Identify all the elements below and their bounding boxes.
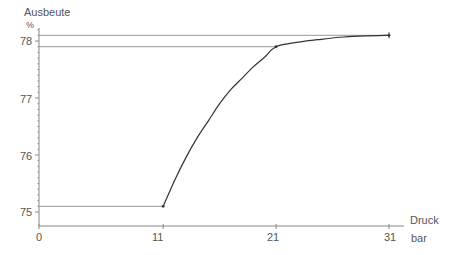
x-tick-label-21: 21 [267,232,279,243]
data-point-marker-1 [275,45,278,48]
x-axis-unit: bar [411,233,427,244]
x-tick-label-31: 31 [384,232,396,243]
plot-area [0,0,463,255]
y-tick-label-78: 78 [20,36,32,47]
y-tick-label-76: 76 [20,151,32,162]
y-axis-title: Ausbeute [24,7,70,18]
x-tick-label-0: 0 [36,232,42,243]
yield-pressure-chart: Ausbeute % 78 77 76 75 0 11 21 31 Druck … [0,0,463,255]
y-tick-label-75: 75 [20,207,32,218]
x-tick-label-11: 11 [152,232,163,243]
y-axis-unit: % [26,21,34,30]
data-point-marker-0 [162,205,165,208]
x-axis-title: Druck [410,215,439,226]
yield-curve [163,35,389,206]
y-tick-label-77: 77 [20,94,32,105]
